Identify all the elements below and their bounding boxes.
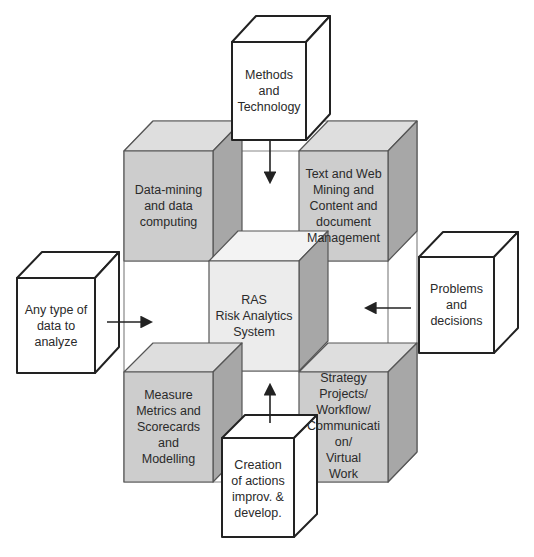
cube-any-data bbox=[17, 252, 119, 373]
cube-problems-decisions bbox=[419, 232, 518, 353]
risk-analytics-cube-diagram bbox=[0, 0, 534, 557]
cube-creation-actions bbox=[222, 415, 317, 537]
block-data-mining bbox=[124, 121, 242, 261]
cube-methods-technology bbox=[232, 16, 330, 140]
